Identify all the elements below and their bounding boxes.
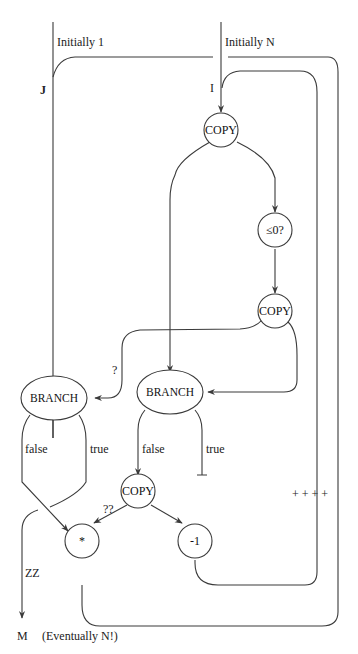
node-branch-left: BRANCH (21, 376, 87, 420)
j-initial-label: Initially 1 (57, 35, 104, 49)
q2-label: ?? (103, 502, 114, 516)
q1-label: ? (112, 363, 117, 377)
svg-text:-1: -1 (190, 534, 200, 548)
i-initial-label: Initially N (225, 35, 275, 49)
copy-mid-to-branch-right (208, 322, 297, 392)
zz-output-edge (22, 510, 38, 618)
svg-text:COPY: COPY (122, 484, 154, 498)
j-var-label: J (40, 83, 46, 97)
node-decrement: -1 (178, 524, 212, 558)
node-multiply: * (65, 524, 99, 558)
output-note-label: (Eventually N!) (42, 629, 118, 643)
svg-text:BRANCH: BRANCH (30, 392, 78, 404)
copy-bottom-to-decrement (151, 505, 182, 523)
zz-label: ZZ (25, 566, 40, 580)
copy-top-to-branch-right (170, 142, 210, 372)
i-var-label: I (210, 81, 214, 95)
copy-top-to-le-zero (237, 142, 275, 212)
right-true-label: true (206, 442, 225, 456)
node-copy-top: COPY (204, 113, 238, 147)
branch-left-false-edge (22, 415, 68, 531)
node-branch-right: BRANCH (137, 370, 203, 414)
node-copy-bottom: COPY (121, 474, 155, 508)
svg-text:COPY: COPY (259, 304, 291, 318)
svg-text:*: * (79, 534, 85, 548)
i-loop-edge (195, 71, 317, 585)
branch-left-true-edge (50, 415, 86, 507)
svg-text:BRANCH: BRANCH (146, 386, 194, 398)
node-le-zero: ≤0? (258, 213, 292, 247)
svg-text:≤0?: ≤0? (266, 223, 284, 237)
left-false-label: false (25, 442, 48, 456)
node-copy-mid: COPY (258, 294, 292, 328)
svg-text:COPY: COPY (205, 123, 237, 137)
output-var-label: M (17, 629, 28, 643)
left-true-label: true (90, 442, 109, 456)
plus-marks: + + + + (292, 487, 328, 501)
right-false-label: false (142, 442, 165, 456)
dataflow-diagram: COPY ≤0? COPY BRANCH BRANCH COPY * -1 In… (0, 0, 358, 654)
